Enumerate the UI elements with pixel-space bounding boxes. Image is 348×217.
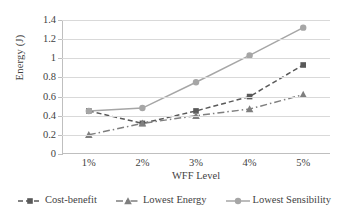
y-axis-tick-mark	[58, 58, 62, 59]
y-axis-tick-label: 0.2	[24, 130, 56, 140]
gridline	[62, 20, 330, 21]
y-axis-title: Energy (J)	[14, 3, 25, 113]
y-axis-tick-labels: 00.20.40.60.811.21.4	[24, 0, 56, 217]
y-axis-tick-label: 0.8	[24, 72, 56, 82]
legend-item-2[interactable]: Lowest Energy	[115, 193, 207, 205]
legend-label: Lowest Sensibility	[253, 194, 331, 205]
legend-item-1[interactable]: Cost-benefit	[17, 193, 97, 205]
legend-marker-icon	[17, 193, 43, 205]
chart-container: Energy (J) 00.20.40.60.811.21.4 1%2%3%4%…	[0, 0, 348, 217]
chart-legend: Cost-benefitLowest EnergyLowest Sensibil…	[0, 190, 348, 208]
y-axis-tick-mark	[58, 154, 62, 155]
x-axis-tick-label: 5%	[283, 157, 323, 168]
data-point-marker	[300, 24, 306, 30]
y-axis-tick-mark	[58, 97, 62, 98]
data-point-marker	[300, 62, 306, 68]
legend-item-3[interactable]: Lowest Sensibility	[225, 193, 331, 205]
series-3	[86, 24, 307, 114]
gridline	[62, 135, 330, 136]
y-axis-tick-label: 0	[24, 149, 56, 159]
gridline	[62, 97, 330, 98]
gridline	[62, 77, 330, 78]
y-axis-tick-label: 1.2	[24, 34, 56, 44]
data-point-marker	[139, 105, 145, 111]
y-axis-tick-label: 1	[24, 53, 56, 63]
gridline	[62, 116, 330, 117]
series-line	[89, 28, 303, 111]
legend-point-marker	[27, 198, 33, 204]
gridline	[62, 58, 330, 59]
y-axis-tick-label: 0.4	[24, 111, 56, 121]
y-axis-tick-label: 0.6	[24, 92, 56, 102]
legend-label: Lowest Energy	[143, 194, 207, 205]
y-axis-tick-mark	[58, 39, 62, 40]
x-axis-tick-label: 3%	[176, 157, 216, 168]
data-point-marker	[193, 79, 199, 85]
gridline	[62, 39, 330, 40]
x-axis-tick-label: 4%	[230, 157, 270, 168]
series-2	[85, 91, 307, 138]
x-axis-tick-label: 1%	[69, 157, 109, 168]
plot-area	[62, 20, 330, 154]
y-axis-tick-mark	[58, 20, 62, 21]
y-axis-tick-mark	[58, 77, 62, 78]
legend-label: Cost-benefit	[45, 194, 97, 205]
y-axis-tick-mark	[58, 135, 62, 136]
data-point-marker	[86, 108, 92, 114]
y-axis-tick-mark	[58, 116, 62, 117]
legend-marker-icon	[225, 193, 251, 205]
x-axis-tick-label: 2%	[122, 157, 162, 168]
y-axis-tick-label: 1.4	[24, 15, 56, 25]
legend-marker-icon	[115, 193, 141, 205]
legend-point-marker	[234, 198, 240, 204]
x-axis-title: WFF Level	[62, 170, 330, 181]
